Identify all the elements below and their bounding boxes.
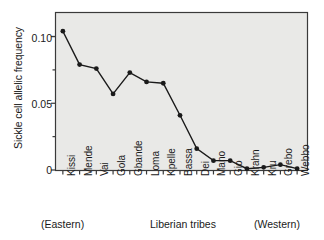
- x-tick-label: Bassa: [184, 148, 194, 176]
- data-point: [295, 166, 300, 171]
- x-tick-label: Grebo: [284, 148, 294, 176]
- data-point: [245, 166, 250, 171]
- x-tick-label: Krahn: [251, 149, 261, 176]
- x-tick-label: Dei: [201, 161, 211, 176]
- x-tick-label: Webbo: [301, 144, 311, 176]
- x-tick-label: Vai: [100, 162, 110, 176]
- y-tick-label-group: 0.10 0.05 0: [18, 0, 52, 180]
- x-tick-label: Mende: [84, 145, 94, 176]
- data-point: [194, 146, 199, 151]
- footer-label-eastern: (Eastern): [41, 219, 84, 230]
- data-point: [261, 165, 266, 170]
- data-point: [144, 80, 149, 85]
- data-point: [60, 29, 65, 34]
- x-axis-title: Liberian tribes: [150, 219, 216, 230]
- data-point: [178, 113, 183, 118]
- y-tick-label: 0: [18, 165, 52, 175]
- x-tick-label: Mano: [217, 151, 227, 176]
- data-point: [111, 92, 116, 97]
- data-point: [77, 62, 82, 67]
- data-point: [94, 66, 99, 71]
- data-point: [228, 158, 233, 163]
- footer-label-western: (Western): [254, 219, 300, 230]
- x-tick-label: Gio: [234, 160, 244, 176]
- figure-container: Sickle cell allelic frequency 0.10 0.05 …: [0, 0, 324, 240]
- x-tick-label: Kissi: [67, 155, 77, 176]
- data-point: [161, 81, 166, 86]
- x-tick-label: Kpelle: [167, 148, 177, 176]
- x-tick-label: Kru: [268, 160, 278, 176]
- y-tick-label: 0.10: [18, 33, 52, 43]
- data-point: [127, 70, 132, 75]
- x-tick-label: Gola: [117, 155, 127, 176]
- y-tick-label: 0.05: [18, 99, 52, 109]
- x-tick-label: Loma: [151, 151, 161, 176]
- x-tick-label: Gbande: [134, 140, 144, 176]
